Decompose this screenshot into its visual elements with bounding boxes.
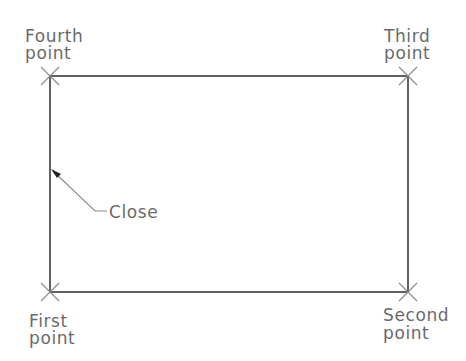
second-point-label-line2: point: [383, 323, 429, 343]
rectangle-diagram: Fourth point Third point First point Sec…: [0, 0, 466, 361]
close-label: Close: [109, 202, 158, 222]
third-point-label-line2: point: [384, 43, 430, 63]
second-point-label-line1: Second: [383, 305, 449, 325]
first-point-label-line2: point: [29, 328, 75, 348]
rectangle-outline: [50, 76, 408, 292]
close-leader: [51, 169, 107, 211]
fourth-point-label-line2: point: [25, 43, 71, 63]
